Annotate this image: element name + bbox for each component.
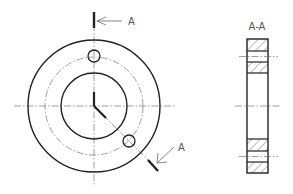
bottom-view-arrow: [157, 147, 174, 163]
section-view: A-A: [235, 21, 281, 173]
section-path-diagonal: [94, 106, 106, 118]
drawing-canvas: A A A-A: [0, 0, 293, 194]
top-section-label: A: [128, 16, 135, 27]
hatch-bottom-1: [247, 139, 268, 151]
lower-right-hole: [123, 135, 135, 147]
front-view: A A: [14, 12, 185, 186]
hatch-top-2: [247, 62, 268, 73]
hatch-bottom-2: [247, 162, 268, 173]
section-view-title: A-A: [249, 21, 266, 32]
bottom-section-label: A: [178, 142, 185, 153]
bottom-cutting-plane-mark: [148, 160, 158, 171]
hatch-top-1: [247, 39, 268, 51]
top-view-arrow: [97, 17, 122, 25]
